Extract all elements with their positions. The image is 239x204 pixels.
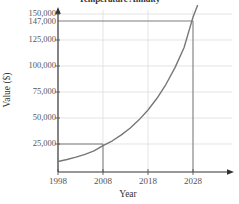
y-tick-label-125000: 125,000 [12,35,56,44]
chart-plot-area [0,0,239,204]
chart-figure: Temperature Annuity [0,0,239,204]
x-tick-label-2008: 2008 [83,176,123,186]
vertical-gridlines [103,10,193,172]
y-tick-label-75000: 75,000 [12,87,56,96]
x-tick-label-1998: 1998 [38,176,78,186]
x-axis-arrow [227,169,234,175]
y-axis-title: Value ($) [2,60,12,120]
y-axis [55,7,61,172]
data-series-line [58,6,198,162]
marker-2028 [58,21,193,172]
x-tick-label-2018: 2018 [128,176,168,186]
x-tick-label-2028: 2028 [173,176,213,186]
x-axis-title: Year [88,189,168,199]
x-axis [58,169,234,175]
horizontal-gridlines [58,14,232,144]
y-tick-label-100000: 100,000 [12,61,56,70]
y-tick-label-147000: 147,000 [12,17,56,26]
y-tick-label-50000: 50,000 [12,113,56,122]
marker-2008 [58,144,103,172]
y-axis-arrow [55,7,61,14]
y-tick-label-25000: 25,000 [12,139,56,148]
